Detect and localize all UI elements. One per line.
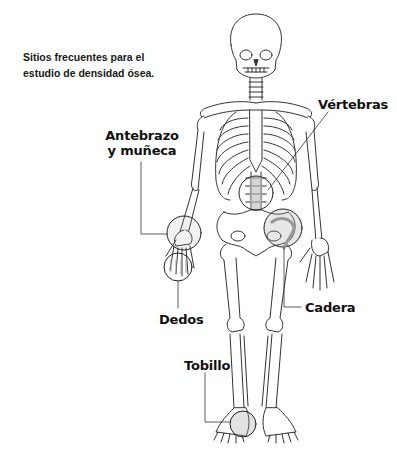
lower-legs [230, 334, 282, 408]
skull-icon [231, 14, 282, 78]
highlight-cadera [264, 209, 302, 248]
label-cadera: Cadera [305, 300, 355, 315]
skeleton-illustration [0, 0, 397, 466]
label-antebrazo-line2: y muñeca [104, 143, 180, 158]
highlight-tobillo [230, 411, 256, 437]
label-antebrazo-y-muneca: Antebrazo y muñeca [104, 128, 180, 158]
label-vertebras: Vértebras [318, 97, 388, 112]
highlight-antebrazo [167, 216, 201, 250]
label-antebrazo-line1: Antebrazo [104, 128, 180, 143]
neck-vertebrae [249, 78, 263, 100]
label-dedos: Dedos [159, 312, 204, 327]
label-tobillo: Tobillo [184, 358, 230, 373]
femurs [220, 244, 291, 332]
